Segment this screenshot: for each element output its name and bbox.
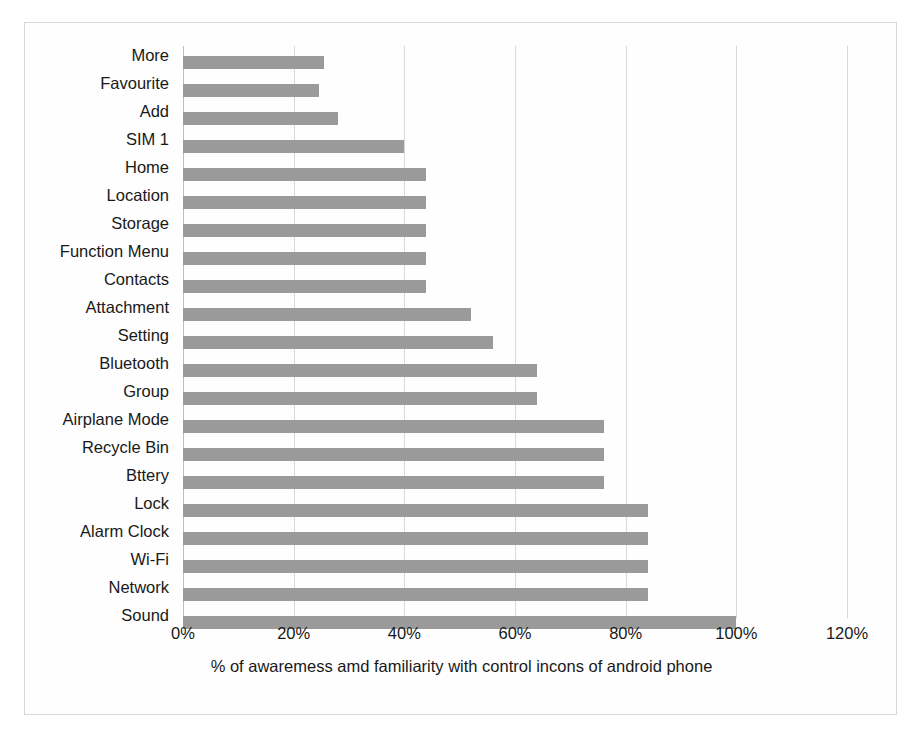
x-axis-title: % of awaremess amd familiarity with cont… [25, 657, 898, 676]
bar [183, 196, 426, 209]
x-tick-label: 80% [609, 624, 642, 643]
category-label: Add [140, 97, 169, 125]
bar [183, 420, 604, 433]
bar [183, 168, 426, 181]
bar [183, 252, 426, 265]
category-label: Wi-Fi [131, 545, 169, 573]
bar-row [183, 328, 493, 356]
bar-row [183, 440, 604, 468]
bar-row [183, 496, 648, 524]
bar [183, 336, 493, 349]
gridline-120 [847, 46, 848, 618]
category-label: Group [123, 377, 169, 405]
category-label: Recycle Bin [82, 433, 169, 461]
x-axis-tick-labels: 0%20%40%60%80%100%120% [183, 624, 847, 650]
category-label: Sound [121, 601, 169, 629]
bar [183, 476, 604, 489]
category-label: Favourite [100, 69, 169, 97]
bar-row [183, 216, 426, 244]
category-label: Attachment [86, 293, 169, 321]
bar-row [183, 412, 604, 440]
category-label: More [131, 41, 169, 69]
category-label: SIM 1 [126, 125, 169, 153]
bar-row [183, 76, 319, 104]
x-tick-label: 0% [171, 624, 195, 643]
bar [183, 112, 338, 125]
bar-row [183, 552, 648, 580]
bar-row [183, 48, 324, 76]
bar-series [183, 46, 847, 618]
category-label: Setting [118, 321, 169, 349]
bar [183, 560, 648, 573]
bar [183, 364, 537, 377]
bar-row [183, 188, 426, 216]
bar [183, 308, 471, 321]
bar [183, 448, 604, 461]
category-label: Alarm Clock [80, 517, 169, 545]
category-label: Lock [134, 489, 169, 517]
x-tick-label: 60% [498, 624, 531, 643]
bar-row [183, 384, 537, 412]
bar [183, 504, 648, 517]
bar [183, 588, 648, 601]
x-tick-label: 100% [715, 624, 757, 643]
x-tick-label: 120% [826, 624, 868, 643]
bar-row [183, 580, 648, 608]
bar-row [183, 468, 604, 496]
bar [183, 532, 648, 545]
bar-row [183, 244, 426, 272]
bar [183, 224, 426, 237]
chart-frame: MoreFavouriteAddSIM 1HomeLocationStorage… [24, 22, 897, 715]
bar [183, 84, 319, 97]
plot-area [183, 46, 847, 618]
bar-row [183, 356, 537, 384]
bar [183, 140, 404, 153]
category-label: Home [125, 153, 169, 181]
bar-row [183, 160, 426, 188]
category-label: Function Menu [60, 237, 169, 265]
category-label: Storage [111, 209, 169, 237]
bar-row [183, 300, 471, 328]
bar-row [183, 524, 648, 552]
bar-row [183, 104, 338, 132]
bar-row [183, 132, 404, 160]
category-label: Contacts [104, 265, 169, 293]
category-axis-labels: MoreFavouriteAddSIM 1HomeLocationStorage… [25, 46, 177, 618]
category-label: Location [107, 181, 169, 209]
bar [183, 280, 426, 293]
category-label: Bluetooth [99, 349, 169, 377]
category-label: Network [108, 573, 169, 601]
x-tick-label: 20% [277, 624, 310, 643]
bar [183, 56, 324, 69]
bar [183, 392, 537, 405]
bar-row [183, 272, 426, 300]
category-label: Bttery [126, 461, 169, 489]
x-tick-label: 40% [388, 624, 421, 643]
category-label: Airplane Mode [63, 405, 169, 433]
